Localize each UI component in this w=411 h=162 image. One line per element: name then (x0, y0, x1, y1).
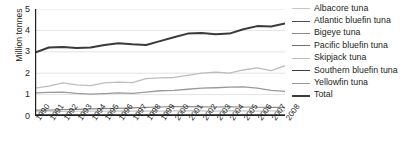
legend-color-swatch (292, 15, 310, 27)
legend-item[interactable]: Total (292, 89, 411, 101)
legend-color-swatch (292, 52, 310, 64)
tuna-catch-line-chart: Million tonnes 543210 199019911992199319… (0, 0, 411, 162)
legend-label: Skipjack tuna (314, 53, 366, 62)
legend-label: Total (314, 90, 333, 99)
legend-label: Southern bluefin tuna (314, 66, 398, 75)
y-tick-label: 3 (18, 47, 30, 56)
legend-color-swatch (292, 2, 310, 14)
x-tick-label: 2008 (284, 102, 302, 122)
y-tick-label: 4 (18, 26, 30, 35)
legend-color-swatch (292, 89, 310, 101)
series-line (35, 66, 285, 88)
y-tick-label: 2 (18, 69, 30, 78)
legend-label: Bigeye tuna (314, 28, 360, 37)
legend-label: Albacore tuna (314, 4, 368, 13)
legend-item[interactable]: Atlantic bluefin tuna (292, 14, 411, 26)
plot-svg (35, 9, 285, 116)
x-axis-tick-labels: 1990199119921993199419951996199719981999… (35, 117, 285, 162)
legend-item[interactable]: Albacore tuna (292, 2, 411, 14)
y-tick-label: 1 (18, 90, 30, 99)
legend-label: Yellowfin tuna (314, 78, 368, 87)
series-line (35, 87, 285, 94)
y-tick-label: 5 (18, 5, 30, 14)
legend-color-swatch (292, 39, 310, 51)
chart-legend: Albacore tunaAtlantic bluefin tunaBigeye… (292, 2, 411, 101)
legend-color-swatch (292, 64, 310, 76)
legend-item[interactable]: Skipjack tuna (292, 52, 411, 64)
legend-item[interactable]: Southern bluefin tuna (292, 64, 411, 76)
series-line (35, 24, 285, 53)
legend-label: Atlantic bluefin tuna (314, 16, 391, 25)
legend-item[interactable]: Yellowfin tuna (292, 76, 411, 88)
legend-color-swatch (292, 77, 310, 89)
plot-area (35, 9, 285, 116)
legend-label: Pacific bluefin tuna (314, 41, 388, 50)
y-tick-label: 0 (18, 112, 30, 121)
legend-color-swatch (292, 27, 310, 39)
legend-item[interactable]: Pacific bluefin tuna (292, 39, 411, 51)
legend-item[interactable]: Bigeye tuna (292, 27, 411, 39)
y-axis-tick-labels: 543210 (16, 0, 30, 120)
